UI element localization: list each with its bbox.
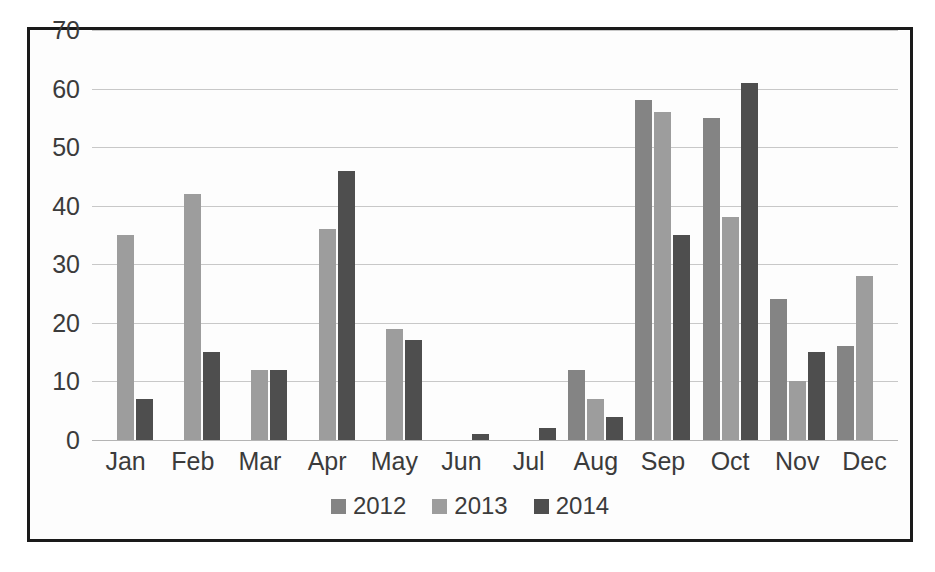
bar-2013-jan[interactable] (117, 235, 134, 440)
bar-slot (875, 30, 892, 440)
bar-2013-nov[interactable] (789, 381, 806, 440)
bar-2014-jan[interactable] (136, 399, 153, 440)
bar-2014-aug[interactable] (606, 417, 623, 440)
x-axis-tick-label: Apr (294, 442, 361, 482)
y-axis: 706050403020100 (30, 30, 86, 440)
bar-2014-jul[interactable] (539, 428, 556, 440)
bar-slot (270, 30, 287, 440)
bar-slot (703, 30, 720, 440)
x-axis-tick-label: Jan (92, 442, 159, 482)
bar-2013-mar[interactable] (251, 370, 268, 440)
bar-2014-may[interactable] (405, 340, 422, 440)
legend-label: 2013 (454, 492, 507, 520)
legend-label: 2012 (353, 492, 406, 520)
x-axis-tick-label: Mar (226, 442, 293, 482)
bar-2013-aug[interactable] (587, 399, 604, 440)
plot-area (92, 30, 898, 440)
bar-slot (770, 30, 787, 440)
x-axis-tick-label: Feb (159, 442, 226, 482)
legend-item-2013[interactable]: 2013 (432, 492, 507, 520)
bar-slot (501, 30, 518, 440)
bar-slot (251, 30, 268, 440)
bar-2012-oct[interactable] (703, 118, 720, 440)
bar-2014-sep[interactable] (673, 235, 690, 440)
bar-2014-nov[interactable] (808, 352, 825, 440)
y-axis-tick-label: 0 (66, 426, 80, 455)
bar-slot (635, 30, 652, 440)
plot-wrapper: 706050403020100 JanFebMarAprMayJunJulAug… (30, 30, 910, 460)
legend-swatch-icon (432, 499, 447, 514)
x-axis-tick-label: Sep (629, 442, 696, 482)
x-axis-tick-label: Aug (562, 442, 629, 482)
legend-swatch-icon (331, 499, 346, 514)
bar-2014-feb[interactable] (203, 352, 220, 440)
bar-2014-jun[interactable] (472, 434, 489, 440)
y-axis-tick-label: 50 (52, 133, 80, 162)
bar-slot (741, 30, 758, 440)
bar-group (226, 30, 293, 440)
chart-frame: 706050403020100 JanFebMarAprMayJunJulAug… (27, 27, 913, 542)
chart-legend: 201220132014 (30, 492, 910, 520)
bar-slot (338, 30, 355, 440)
bar-slot (673, 30, 690, 440)
bar-2012-dec[interactable] (837, 346, 854, 440)
bar-slot (405, 30, 422, 440)
bar-2014-apr[interactable] (338, 171, 355, 440)
x-axis: JanFebMarAprMayJunJulAugSepOctNovDec (92, 442, 898, 482)
legend-item-2012[interactable]: 2012 (331, 492, 406, 520)
x-axis-tick-label: Jun (428, 442, 495, 482)
bar-group (361, 30, 428, 440)
bar-slot (472, 30, 489, 440)
x-axis-tick-label: May (361, 442, 428, 482)
bar-group (562, 30, 629, 440)
bar-2012-sep[interactable] (635, 100, 652, 440)
bar-slot (98, 30, 115, 440)
gridline (92, 440, 898, 441)
y-axis-tick-label: 60 (52, 74, 80, 103)
y-axis-tick-label: 10 (52, 367, 80, 396)
bar-slot (136, 30, 153, 440)
x-axis-tick-label: Nov (764, 442, 831, 482)
bar-2014-oct[interactable] (741, 83, 758, 440)
legend-label: 2014 (556, 492, 609, 520)
bar-group (428, 30, 495, 440)
bar-slot (184, 30, 201, 440)
bar-slot (165, 30, 182, 440)
bar-group (495, 30, 562, 440)
x-axis-tick-label: Oct (697, 442, 764, 482)
bar-slot (386, 30, 403, 440)
x-axis-tick-label: Dec (831, 442, 898, 482)
bar-slot (837, 30, 854, 440)
bar-2013-may[interactable] (386, 329, 403, 440)
bar-slot (232, 30, 249, 440)
bar-2012-aug[interactable] (568, 370, 585, 440)
bar-slot (856, 30, 873, 440)
bar-slot (539, 30, 556, 440)
x-axis-tick-label: Jul (495, 442, 562, 482)
bar-groups (92, 30, 898, 440)
bar-group (697, 30, 764, 440)
bar-slot (367, 30, 384, 440)
legend-swatch-icon (534, 499, 549, 514)
bar-2013-sep[interactable] (654, 112, 671, 440)
bar-2013-apr[interactable] (319, 229, 336, 440)
bar-2012-nov[interactable] (770, 299, 787, 440)
bar-2013-dec[interactable] (856, 276, 873, 440)
bar-group (294, 30, 361, 440)
bar-group (92, 30, 159, 440)
legend-item-2014[interactable]: 2014 (534, 492, 609, 520)
bar-slot (606, 30, 623, 440)
bar-2013-feb[interactable] (184, 194, 201, 440)
y-axis-tick-label: 30 (52, 250, 80, 279)
bar-slot (808, 30, 825, 440)
chart-canvas: 706050403020100 JanFebMarAprMayJunJulAug… (30, 30, 910, 539)
bar-slot (587, 30, 604, 440)
bar-2013-oct[interactable] (722, 217, 739, 440)
bar-slot (434, 30, 451, 440)
bar-group (764, 30, 831, 440)
bar-2014-mar[interactable] (270, 370, 287, 440)
bar-group (831, 30, 898, 440)
bar-slot (117, 30, 134, 440)
bar-group (159, 30, 226, 440)
y-axis-tick-label: 20 (52, 308, 80, 337)
